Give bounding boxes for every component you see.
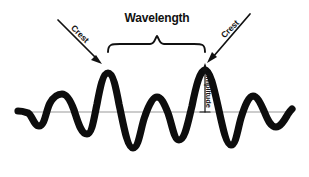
wavelength-label: Wavelength bbox=[125, 11, 190, 25]
wave-diagram-canvas: Wavelength Crest Crest Amplitude bbox=[0, 0, 309, 177]
wave-curve bbox=[18, 70, 292, 148]
wave-diagram: Wavelength Crest Crest Amplitude bbox=[0, 0, 309, 177]
amplitude-label: Amplitude bbox=[204, 72, 213, 108]
wavelength-brace bbox=[108, 36, 205, 52]
crest-left-arrow-head bbox=[91, 55, 102, 64]
